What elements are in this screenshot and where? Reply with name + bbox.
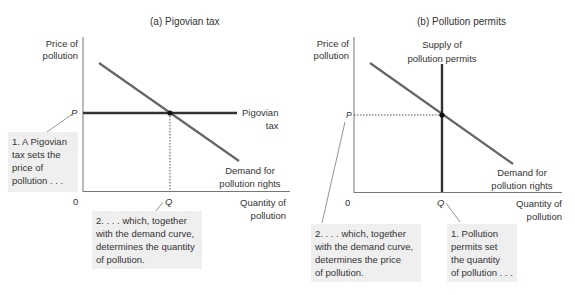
panel-b-x-axis-label: Quantity of pollution — [498, 197, 562, 223]
panel-a-y-label-line2: pollution — [20, 50, 78, 62]
panel-b-quantity-label: Q — [437, 197, 444, 209]
note-line: 1. A Pigovian — [12, 135, 74, 148]
note-line: with the demand curve, — [96, 227, 198, 240]
panel-a-note2-leader — [156, 202, 163, 211]
panel-b-x-label-line2: pollution — [498, 210, 562, 223]
panel-b-supply-label-line2: pollution permits — [396, 52, 488, 66]
panel-b-y-label-line1: Price of — [291, 38, 349, 50]
note-line: pollution . . . — [12, 174, 74, 187]
note-line: determines the quantity — [96, 240, 198, 253]
note-line: the quantity — [451, 253, 513, 266]
note-line: price of — [12, 161, 74, 174]
note-line: tax sets the — [12, 148, 74, 161]
note-line: with the demand curve, — [315, 240, 417, 253]
panel-b-origin-label: 0 — [345, 197, 350, 209]
panel-a-y-label-line1: Price of — [20, 38, 78, 50]
note-line: 2. . . . which, together — [315, 227, 417, 240]
panel-b-note-1: 1. Pollution permits set the quantity of… — [447, 224, 517, 282]
note-line: of pollution . . . — [451, 266, 513, 279]
panel-b-price-label: P — [346, 109, 352, 121]
panel-a-equilibrium-point — [167, 110, 172, 115]
panel-a-x-label-line2: pollution — [222, 209, 286, 222]
panel-a-price-label: P — [71, 107, 77, 119]
panel-b-x-label-line1: Quantity of — [498, 197, 562, 210]
note-line: permits set — [451, 240, 513, 253]
panel-a-tax-label-line2: tax — [242, 119, 278, 132]
panel-b-supply-label-line1: Supply of — [396, 38, 488, 52]
note-line: of pollution. — [96, 253, 198, 266]
panel-b-note2-leader — [322, 122, 345, 223]
panel-a-title: (a) Pigovian tax — [150, 16, 219, 27]
panel-a-quantity-label: Q — [165, 196, 172, 208]
note-line: determines the price — [315, 253, 417, 266]
note-line: 2. . . . which, together — [96, 214, 198, 227]
panel-a-origin-label: 0 — [73, 196, 78, 208]
panel-b-demand-label: Demand for pollution rights — [482, 166, 562, 192]
panel-b-supply-label: Supply of pollution permits — [396, 38, 488, 66]
panel-a-note-1: 1. A Pigovian tax sets the price of poll… — [8, 132, 78, 192]
panel-a-note-2: 2. . . . which, together with the demand… — [92, 211, 202, 269]
panel-b-note1-leader — [446, 203, 460, 222]
note-line: of pollution. — [315, 266, 417, 279]
panel-a-demand-label-line2: pollution rights — [210, 177, 290, 190]
panel-b-note-2: 2. . . . which, together with the demand… — [311, 224, 421, 282]
panel-a-demand-label-line1: Demand for — [210, 164, 290, 177]
panel-b-y-axis-label: Price of pollution — [291, 38, 349, 62]
panel-a-x-label-line1: Quantity of — [222, 196, 286, 209]
note-line: 1. Pollution — [451, 227, 513, 240]
panel-a-x-axis-label: Quantity of pollution — [222, 196, 286, 222]
panel-b-demand-label-line1: Demand for — [482, 166, 562, 179]
panel-b-demand-label-line2: pollution rights — [482, 179, 562, 192]
panel-a-tax-label-line1: Pigovian — [242, 106, 278, 119]
panel-a-tax-label: Pigovian tax — [242, 106, 278, 132]
panel-a-note1-leader — [47, 115, 71, 132]
panel-b-title: (b) Pollution permits — [417, 16, 506, 27]
panel-b-equilibrium-point — [439, 112, 444, 117]
panel-a-y-axis-label: Price of pollution — [20, 38, 78, 62]
panel-b-y-label-line2: pollution — [291, 50, 349, 62]
panel-a-demand-label: Demand for pollution rights — [210, 164, 290, 190]
